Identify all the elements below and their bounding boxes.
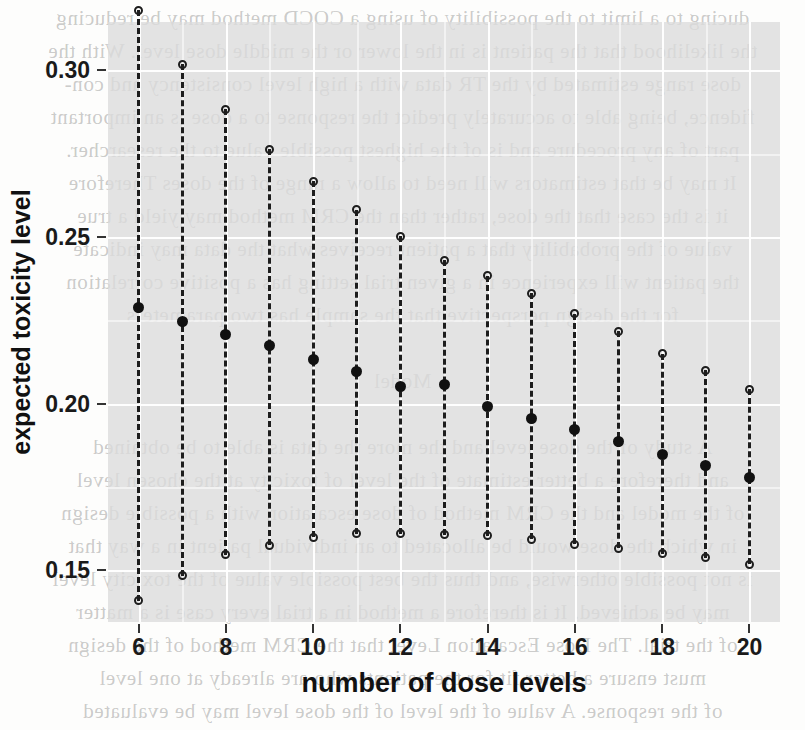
interval-dashed-line bbox=[443, 260, 446, 535]
lower-bound-marker bbox=[309, 533, 318, 542]
expected-value-marker bbox=[351, 366, 362, 377]
x-tick-label: 10 bbox=[283, 634, 343, 661]
expected-value-marker bbox=[395, 381, 406, 392]
upper-bound-marker bbox=[396, 232, 405, 241]
expected-value-marker bbox=[657, 449, 668, 460]
expected-value-marker bbox=[569, 424, 580, 435]
lower-bound-marker bbox=[614, 544, 623, 553]
upper-bound-marker bbox=[658, 349, 667, 358]
expected-value-marker bbox=[220, 329, 231, 340]
lower-bound-marker bbox=[396, 529, 405, 538]
x-tick-mark bbox=[225, 624, 227, 633]
x-tick-label: 16 bbox=[545, 634, 605, 661]
lower-bound-marker bbox=[178, 571, 187, 580]
expected-value-marker bbox=[744, 472, 755, 483]
expected-value-marker bbox=[482, 401, 493, 412]
x-tick-label: 8 bbox=[196, 634, 256, 661]
lower-bound-marker bbox=[265, 541, 274, 550]
x-tick-label: 20 bbox=[719, 634, 779, 661]
upper-bound-marker bbox=[745, 385, 754, 394]
x-tick-label: 18 bbox=[632, 634, 692, 661]
y-tick-label: 0.15 bbox=[12, 557, 90, 584]
y-tick-mark bbox=[97, 69, 106, 71]
upper-bound-marker bbox=[701, 366, 710, 375]
y-tick-mark bbox=[97, 236, 106, 238]
y-tick-mark bbox=[97, 403, 106, 405]
upper-bound-marker bbox=[221, 105, 230, 114]
x-tick-mark bbox=[312, 624, 314, 633]
expected-value-marker bbox=[526, 413, 537, 424]
lower-bound-marker bbox=[527, 535, 536, 544]
expected-value-marker bbox=[439, 379, 450, 390]
lower-bound-marker bbox=[745, 560, 754, 569]
lower-bound-marker bbox=[658, 549, 667, 558]
x-tick-mark bbox=[661, 624, 663, 633]
x-tick-mark bbox=[138, 624, 140, 633]
expected-value-marker bbox=[613, 436, 624, 447]
expected-value-marker bbox=[308, 354, 319, 365]
upper-bound-marker bbox=[178, 60, 187, 69]
x-tick-label: 6 bbox=[109, 634, 169, 661]
chart-figure: 0.150.200.250.3068101214161820 expected … bbox=[0, 0, 805, 730]
y-axis-title: expected toxicity level bbox=[7, 112, 36, 532]
x-tick-mark bbox=[574, 624, 576, 633]
y-tick-mark bbox=[97, 569, 106, 571]
upper-bound-marker bbox=[309, 177, 318, 186]
upper-bound-marker bbox=[614, 327, 623, 336]
lower-bound-marker bbox=[440, 530, 449, 539]
expected-value-marker bbox=[177, 316, 188, 327]
x-axis-title: number of dose levels bbox=[108, 668, 780, 699]
upper-bound-marker bbox=[527, 289, 536, 298]
upper-bound-marker bbox=[440, 256, 449, 265]
x-tick-label: 12 bbox=[370, 634, 430, 661]
upper-bound-marker bbox=[265, 145, 274, 154]
x-tick-mark bbox=[399, 624, 401, 633]
y-tick-label: 0.30 bbox=[12, 57, 90, 84]
x-tick-mark bbox=[748, 624, 750, 633]
upper-bound-marker bbox=[134, 6, 143, 15]
x-tick-label: 14 bbox=[458, 634, 518, 661]
x-tick-mark bbox=[487, 624, 489, 633]
expected-value-marker bbox=[133, 302, 144, 313]
